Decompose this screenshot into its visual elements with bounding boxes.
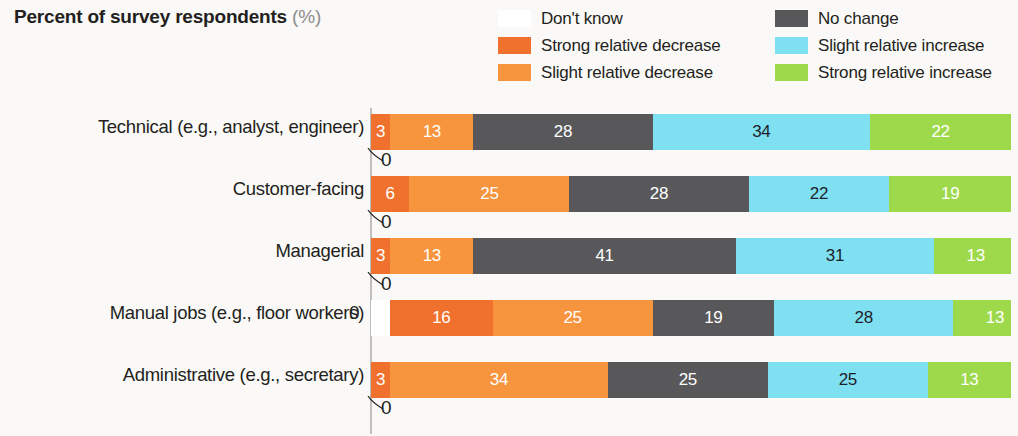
legend-item-label: Strong relative increase <box>818 63 992 83</box>
bar-segment: 19 <box>889 176 1011 212</box>
bar-segment: 3 <box>371 114 390 150</box>
bar-segment: 25 <box>768 362 928 398</box>
stacked-bar: 625282219 <box>371 176 1011 212</box>
legend-swatch-icon <box>498 64 531 81</box>
zero-leader-line-icon <box>366 396 426 422</box>
legend-swatch-icon <box>775 37 808 54</box>
category-label: Manual jobs (e.g., floor workers) <box>0 302 364 324</box>
bar-row: Administrative (e.g., secretary)33425251… <box>0 352 1018 414</box>
legend-swatch-icon <box>775 10 808 27</box>
bar-segment: 16 <box>390 300 492 336</box>
bar-row: Managerial3134131130 <box>0 228 1018 290</box>
bar-segment <box>371 300 390 336</box>
legend-item-label: No change <box>818 9 898 29</box>
category-label: Administrative (e.g., secretary) <box>0 364 364 386</box>
plot-area: Technical (e.g., analyst, engineer)31328… <box>0 104 1018 436</box>
stacked-bar: 1625192813 <box>371 300 1011 336</box>
bar-segment: 28 <box>569 176 748 212</box>
bar-segment: 28 <box>473 114 652 150</box>
bar-segment: 19 <box>653 300 775 336</box>
stacked-bar: 313283422 <box>371 114 1011 150</box>
bar-row: Customer-facing6252822190 <box>0 166 1018 228</box>
bar-segment: 3 <box>371 362 390 398</box>
bar-row: Manual jobs (e.g., floor workers)1625192… <box>0 290 1018 352</box>
legend-item: Strong relative decrease <box>498 32 775 59</box>
legend-swatch-icon <box>498 37 531 54</box>
legend-swatch-icon <box>498 10 531 27</box>
legend-item-label: Slight relative decrease <box>541 63 713 83</box>
bar-segment: 25 <box>493 300 653 336</box>
legend-item: Slight relative increase <box>775 32 1018 59</box>
chart-title-unit: (%) <box>292 6 321 27</box>
bar-row: Technical (e.g., analyst, engineer)31328… <box>0 104 1018 166</box>
bar-segment: 3 <box>371 238 390 274</box>
legend-item-label: Slight relative increase <box>818 36 984 56</box>
bar-segment: 6 <box>371 176 409 212</box>
chart-header: Percent of survey respondents (%) Don't … <box>0 0 1018 100</box>
zero-annotation: 0 <box>366 396 426 422</box>
bar-segment: 13 <box>390 238 473 274</box>
bar-segment: 13 <box>953 300 1011 336</box>
category-label: Customer-facing <box>0 178 364 200</box>
bar-segment: 22 <box>749 176 890 212</box>
category-label: Managerial <box>0 240 364 262</box>
stacked-bar: 313413113 <box>371 238 1011 274</box>
bar-segment: 13 <box>390 114 473 150</box>
legend-item: Slight relative decrease <box>498 59 775 86</box>
stacked-bar: 334252513 <box>371 362 1011 398</box>
zero-value-label: 0 <box>349 302 360 324</box>
bar-segment: 25 <box>409 176 569 212</box>
page-title: Percent of survey respondents (%) <box>14 6 321 28</box>
bar-segment: 28 <box>774 300 953 336</box>
bar-segment: 13 <box>928 362 1011 398</box>
bar-segment: 34 <box>653 114 871 150</box>
legend-item: Don't know <box>498 5 775 32</box>
bar-segment: 25 <box>608 362 768 398</box>
legend-item: Strong relative increase <box>775 59 1018 86</box>
legend-item-label: Strong relative decrease <box>541 36 720 56</box>
category-label: Technical (e.g., analyst, engineer) <box>0 116 364 138</box>
chart-title-text: Percent of survey respondents <box>14 6 287 27</box>
bar-segment: 13 <box>934 238 1011 274</box>
legend-swatch-icon <box>775 64 808 81</box>
bar-segment: 41 <box>473 238 735 274</box>
zero-value-label: 0 <box>381 397 392 419</box>
bar-segment: 22 <box>870 114 1011 150</box>
bar-segment: 31 <box>736 238 934 274</box>
legend-item: No change <box>775 5 1018 32</box>
legend-item-label: Don't know <box>541 9 623 29</box>
chart-legend: Don't knowNo changeStrong relative decre… <box>498 5 1018 86</box>
bar-segment: 34 <box>390 362 608 398</box>
